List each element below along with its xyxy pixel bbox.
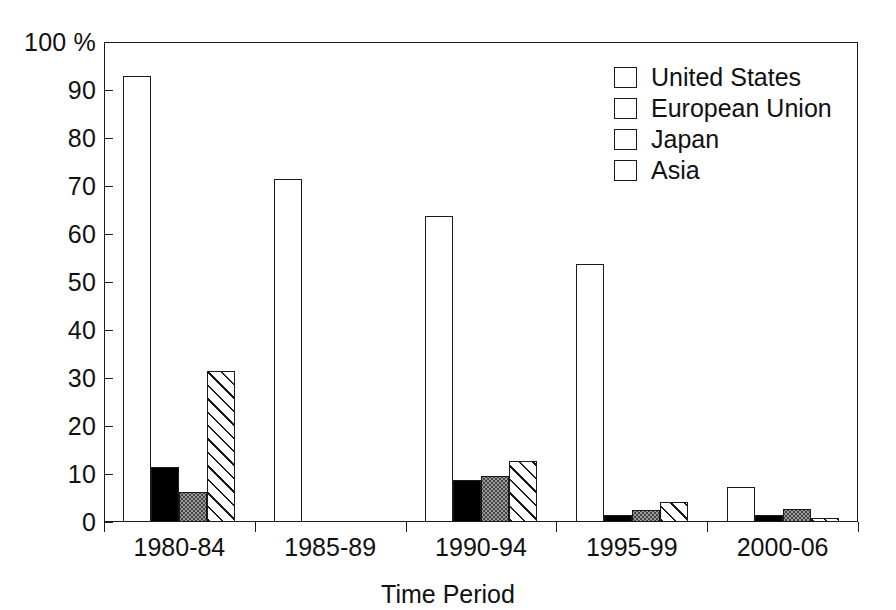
y-axis-tick-label: 60 bbox=[68, 222, 96, 247]
legend-swatch-eu-icon bbox=[614, 98, 637, 119]
bar-jp-1990-94 bbox=[481, 476, 509, 522]
y-axis-tick-label: 90 bbox=[68, 78, 96, 103]
bar-as-1980-84 bbox=[207, 371, 235, 522]
bar-jp-1995-99 bbox=[632, 510, 660, 522]
x-axis-tick-label: 1995-99 bbox=[556, 533, 707, 561]
y-axis-tick-label: 40 bbox=[68, 318, 96, 343]
bar-eu-1980-84 bbox=[151, 467, 179, 522]
x-axis-tick-mark bbox=[255, 522, 256, 532]
legend-swatch-as-icon bbox=[614, 160, 637, 181]
bar-eu-1990-94 bbox=[453, 480, 481, 522]
x-axis-tick-mark bbox=[556, 522, 557, 532]
x-axis-tick-mark bbox=[406, 522, 407, 532]
y-axis-tick-mark bbox=[104, 90, 113, 91]
legend-swatch-us-icon bbox=[614, 67, 637, 88]
bar-us-1980-84 bbox=[123, 76, 151, 522]
legend-label: European Union bbox=[651, 96, 832, 121]
bar-us-2000-06 bbox=[727, 487, 755, 522]
bar-eu-1995-99 bbox=[604, 515, 632, 522]
bar-us-1990-94 bbox=[425, 216, 453, 522]
chart-legend: United StatesEuropean UnionJapanAsia bbox=[614, 62, 854, 186]
y-axis-tick-label: 0 bbox=[82, 510, 96, 535]
y-axis-tick-label: 100 % bbox=[24, 30, 96, 55]
y-axis-tick-mark bbox=[104, 474, 113, 475]
bar-eu-2000-06 bbox=[755, 515, 783, 522]
y-axis-tick-label: 10 bbox=[68, 462, 96, 487]
x-axis-tick-mark bbox=[707, 522, 708, 532]
legend-item-eu: European Union bbox=[614, 93, 854, 124]
legend-item-us: United States bbox=[614, 62, 854, 93]
y-axis-tick-mark bbox=[104, 42, 113, 43]
bar-us-1995-99 bbox=[576, 264, 604, 522]
y-axis-tick-label: 30 bbox=[68, 366, 96, 391]
legend-label: Japan bbox=[651, 127, 719, 152]
y-axis-tick-mark bbox=[104, 378, 113, 379]
y-axis-tick-label: 70 bbox=[68, 174, 96, 199]
legend-label: United States bbox=[651, 65, 801, 90]
y-axis-tick-mark bbox=[104, 234, 113, 235]
y-axis-tick-mark bbox=[104, 426, 113, 427]
bar-chart: 0102030405060708090100 % 1980-841985-891… bbox=[0, 0, 896, 610]
bar-as-1990-94 bbox=[509, 461, 537, 522]
x-axis-tick-mark bbox=[858, 522, 859, 532]
x-axis-tick-label: 1990-94 bbox=[406, 533, 557, 561]
legend-item-as: Asia bbox=[614, 155, 854, 186]
bar-us-1985-89 bbox=[274, 179, 302, 522]
legend-swatch-jp-icon bbox=[614, 129, 637, 150]
y-axis-tick-mark bbox=[104, 186, 113, 187]
x-axis-title: Time Period bbox=[0, 580, 896, 608]
legend-item-jp: Japan bbox=[614, 124, 854, 155]
y-axis-tick-mark bbox=[104, 522, 113, 523]
y-axis-tick-mark bbox=[104, 138, 113, 139]
y-axis-tick-label: 80 bbox=[68, 126, 96, 151]
x-axis-tick-label: 1980-84 bbox=[104, 533, 255, 561]
y-axis-tick-label: 50 bbox=[68, 270, 96, 295]
y-axis: 0102030405060708090100 % bbox=[0, 0, 96, 610]
x-axis-tick-mark bbox=[104, 522, 105, 532]
y-axis-tick-label: 20 bbox=[68, 414, 96, 439]
y-axis-tick-mark bbox=[104, 330, 113, 331]
bar-jp-1980-84 bbox=[179, 492, 207, 522]
legend-label: Asia bbox=[651, 158, 700, 183]
bar-as-1995-99 bbox=[660, 502, 688, 522]
bar-jp-2000-06 bbox=[783, 509, 811, 522]
x-axis-tick-label: 1985-89 bbox=[255, 533, 406, 561]
x-axis-tick-label: 2000-06 bbox=[707, 533, 858, 561]
y-axis-tick-mark bbox=[104, 282, 113, 283]
bar-as-2000-06 bbox=[811, 518, 839, 522]
